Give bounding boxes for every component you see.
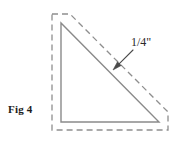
figure-caption: Fig 4 — [8, 103, 54, 116]
figure-4-diagram: Fig 4 1/4" — [0, 0, 187, 144]
seam-allowance-dimension-label: 1/4" — [131, 35, 151, 49]
diagram-canvas — [0, 0, 187, 144]
